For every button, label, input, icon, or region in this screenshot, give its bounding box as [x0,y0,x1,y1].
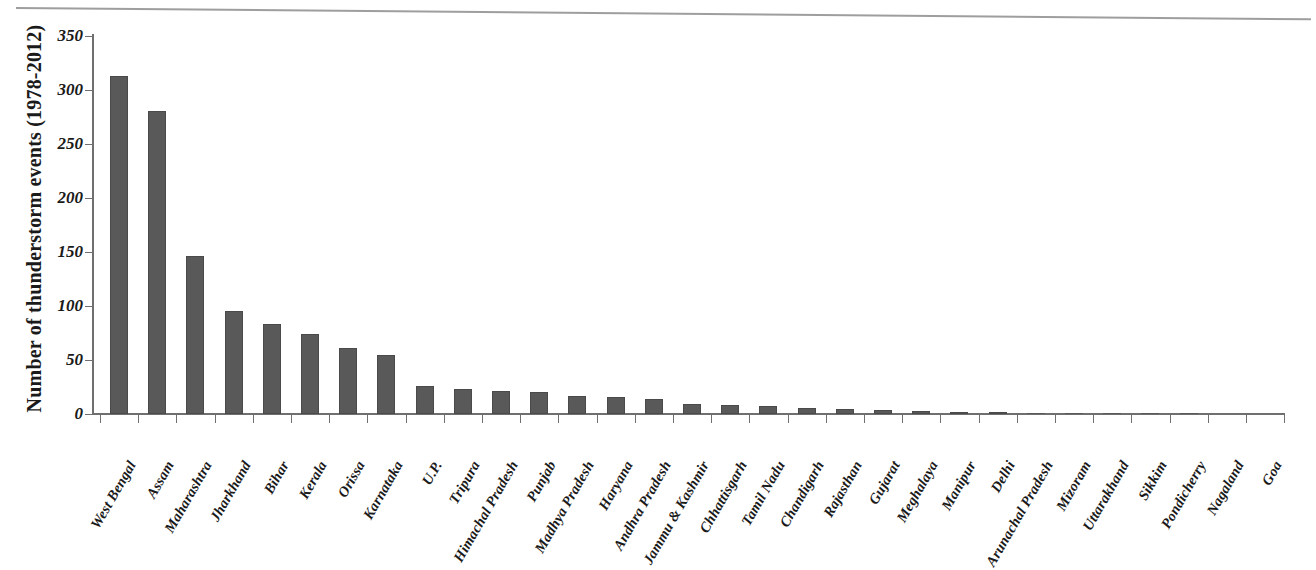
bar [683,404,701,414]
x-axis-tick-mark [329,415,330,423]
x-axis-tick-mark [367,415,368,423]
x-axis-label: West Bengal [87,458,139,532]
bar [530,392,548,414]
y-axis-tick-mark [85,36,92,37]
bar [377,355,395,414]
bar [339,348,357,414]
x-axis-label: Manipur [938,458,980,513]
y-axis-tick-mark [85,360,92,361]
bar [148,111,166,414]
bar [836,409,854,414]
bar [645,399,663,414]
thunderstorm-events-bar-chart: Number of thunderstorm events (1978-2012… [0,0,1316,570]
x-axis-label: Bihar [260,458,292,497]
bar [1180,413,1198,414]
y-axis-tick-mark [85,414,92,415]
x-axis-tick-mark [406,415,407,423]
bar [1103,413,1121,414]
y-axis-tick-label: 250 [58,134,84,154]
bar [301,334,319,414]
x-axis-tick-mark [826,415,827,423]
x-axis-tick-mark [979,415,980,423]
x-axis-tick-mark [1284,415,1285,423]
bar [1065,413,1083,414]
x-axis-tick-mark [1208,415,1209,423]
x-axis-tick-mark [597,415,598,423]
bar [416,386,434,414]
bar [950,412,968,414]
bar [912,411,930,414]
x-axis-tick-mark [1246,415,1247,423]
x-axis-tick-mark [176,415,177,423]
bar [1141,413,1159,414]
x-axis-tick-mark [100,415,101,423]
x-axis-tick-mark [940,415,941,423]
x-axis-label: Mizoram [1053,458,1095,514]
x-axis-tick-mark [1055,415,1056,423]
y-axis-tick-mark [85,198,92,199]
x-axis-tick-mark [520,415,521,423]
bar [1027,413,1045,414]
x-axis-tick-mark [711,415,712,423]
bar [721,405,739,414]
x-axis-label: Gujarat [865,458,903,508]
x-axis-tick-mark [558,415,559,423]
x-axis-tick-mark [673,415,674,423]
y-axis-tick-label: 150 [58,242,84,262]
x-axis-label: Delhi [987,458,1018,496]
bar [110,76,128,414]
bar [607,397,625,414]
y-axis-tick-mark [85,144,92,145]
x-axis-tick-mark [788,415,789,423]
y-axis-tick-label: 50 [66,350,83,370]
bar [568,396,586,414]
x-axis-tick-mark [215,415,216,423]
y-axis-tick-label: 100 [58,296,84,316]
x-axis-tick-mark [1017,415,1018,423]
y-axis-tick-mark [85,90,92,91]
x-axis-label: Orissa [335,458,369,501]
bar [989,412,1007,414]
x-axis-tick-mark [635,415,636,423]
bar [492,391,510,414]
x-axis-label: Sikkim [1135,458,1171,503]
y-axis-tick-label: 0 [75,404,84,424]
y-axis-tick-label: 350 [58,26,84,46]
x-axis-tick-mark [138,415,139,423]
x-axis-tick-mark [749,415,750,423]
x-axis-label: Assam [143,458,178,501]
x-axis-tick-mark [902,415,903,423]
x-axis-label: Punjab [523,458,560,505]
x-axis-tick-mark [482,415,483,423]
y-axis-tick-mark [85,306,92,307]
y-axis-tick-mark [85,252,92,253]
plot-area: 350300250200150100500 West BengalAssamMa… [92,36,1285,414]
x-axis-label: Nagaland [1203,458,1248,518]
bar [798,408,816,414]
x-axis-tick-mark [253,415,254,423]
x-axis-label: U.P. [418,458,445,488]
bar [186,256,204,414]
y-axis-tick-label: 200 [58,188,84,208]
y-axis-title: Number of thunderstorm events (1978-2012… [23,19,46,419]
x-axis-tick-mark [1093,415,1094,423]
x-axis-tick-mark [864,415,865,423]
bar [874,410,892,414]
bar [454,389,472,414]
x-axis-label: Haryana [595,458,637,513]
x-axis-tick-mark [444,415,445,423]
x-axis-label: Goa [1258,458,1285,488]
x-axis-tick-mark [1170,415,1171,423]
y-axis-tick-label: 300 [58,80,84,100]
bar [759,406,777,414]
bar [263,324,281,414]
bar [225,311,243,414]
x-axis-label: Kerala [296,458,331,502]
x-axis-tick-mark [1131,415,1132,423]
x-axis-label: Tripura [445,458,483,507]
x-axis-tick-mark [291,415,292,423]
